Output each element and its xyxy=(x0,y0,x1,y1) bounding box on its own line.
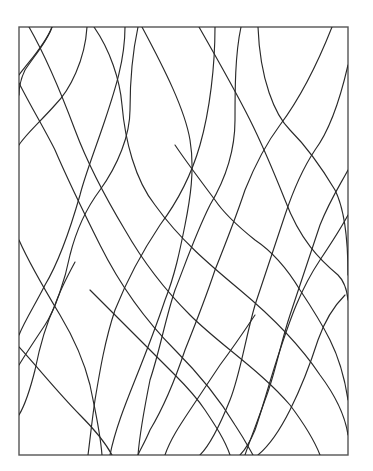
curve-group xyxy=(19,27,348,455)
curve-c9 xyxy=(199,27,348,300)
curve-c24 xyxy=(165,315,255,455)
curve-c7 xyxy=(19,27,138,365)
curve-c18 xyxy=(240,215,348,455)
curve-c22 xyxy=(258,295,345,455)
curve-c17 xyxy=(19,240,102,455)
curve-c4 xyxy=(19,27,87,145)
curve-c2 xyxy=(19,27,52,75)
curve-c6 xyxy=(19,27,125,335)
curve-c5 xyxy=(94,27,348,435)
curve-c10 xyxy=(88,27,215,455)
curve-c21 xyxy=(175,145,348,400)
curve-c14 xyxy=(200,65,348,455)
curve-c19 xyxy=(19,347,112,455)
abstract-line-art xyxy=(0,0,373,471)
line-art-canvas xyxy=(0,0,373,471)
curve-c8 xyxy=(110,27,192,455)
curve-c20 xyxy=(19,262,75,415)
